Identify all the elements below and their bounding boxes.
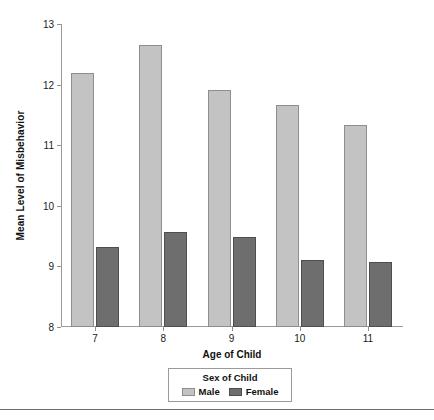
bar-female-age-8 — [164, 232, 187, 327]
y-tick-mark — [57, 145, 61, 146]
x-tick-mark — [95, 327, 96, 331]
x-tick-label: 7 — [92, 333, 98, 344]
x-tick-label: 9 — [229, 333, 235, 344]
bar-male-age-8 — [139, 45, 162, 327]
y-tick-label: 10 — [43, 200, 54, 211]
bar-female-age-10 — [301, 260, 324, 327]
y-tick-label: 11 — [44, 140, 54, 151]
y-tick-label: 9 — [48, 261, 54, 272]
x-tick-label: 10 — [294, 333, 305, 344]
plot-area: 89101112137891011 — [61, 24, 402, 327]
bar-male-age-9 — [208, 90, 231, 327]
x-tick-mark — [300, 327, 301, 331]
y-axis-title: Mean Level of Misbehavior — [14, 24, 28, 327]
bar-male-age-10 — [276, 105, 299, 327]
legend-item-female: Female — [229, 386, 279, 397]
x-tick-mark — [232, 327, 233, 331]
y-tick-label: 8 — [48, 322, 54, 333]
x-tick-mark — [368, 327, 369, 331]
y-tick-mark — [57, 266, 61, 267]
x-tick-label: 8 — [161, 333, 167, 344]
bar-male-age-11 — [344, 125, 367, 327]
bar-chart-figure: Mean Level of Misbehavior 89101112137891… — [0, 0, 434, 420]
legend: Sex of Child MaleFemale — [168, 368, 292, 402]
y-tick-label: 12 — [43, 79, 54, 90]
bar-female-age-9 — [233, 237, 256, 327]
y-tick-label: 13 — [43, 19, 54, 30]
y-tick-mark — [57, 85, 61, 86]
bar-female-age-7 — [96, 247, 119, 327]
x-axis-title: Age of Child — [61, 349, 403, 360]
legend-swatch-male — [182, 388, 195, 396]
x-tick-mark — [163, 327, 164, 331]
bottom-divider — [0, 409, 434, 410]
legend-item-male: Male — [182, 386, 220, 397]
legend-label-female: Female — [246, 386, 279, 397]
bar-male-age-7 — [71, 73, 94, 327]
x-tick-label: 11 — [363, 333, 373, 344]
y-axis-title-text: Mean Level of Misbehavior — [16, 111, 27, 241]
legend-swatch-female — [229, 388, 242, 396]
bar-female-age-11 — [369, 262, 392, 327]
legend-label-male: Male — [199, 386, 220, 397]
legend-title: Sex of Child — [169, 372, 291, 384]
y-tick-mark — [57, 327, 61, 328]
y-tick-mark — [57, 24, 61, 25]
y-tick-mark — [57, 206, 61, 207]
legend-items: MaleFemale — [169, 386, 291, 397]
